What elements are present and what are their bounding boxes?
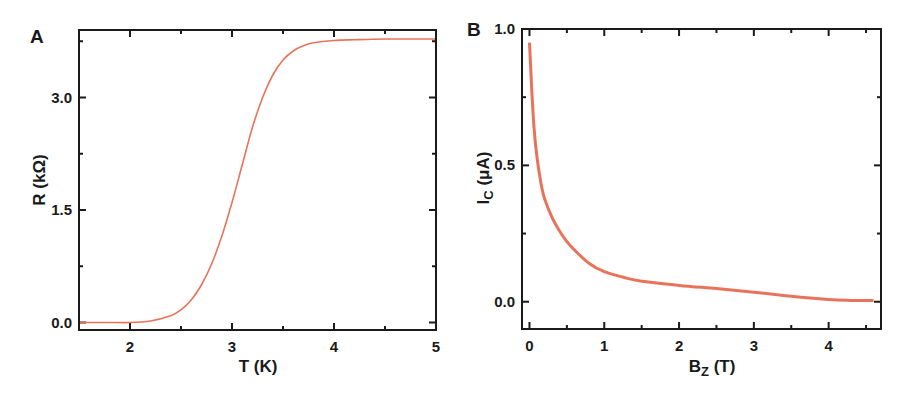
plot-frame-b [522, 29, 881, 329]
y-tick-label: 0.5 [494, 156, 515, 173]
panel-label-b: B [467, 19, 481, 40]
axis-ticks-a [79, 30, 436, 330]
tick-labels-a: 23450.01.53.0 [51, 89, 440, 356]
x-tick-label: 4 [824, 337, 833, 354]
y-axis-label-b: IC (μA) [474, 152, 496, 205]
x-axis-label-a: T (K) [239, 357, 278, 376]
figure: A 23450.01.53.0 T (K) R (kΩ) B 012340.00… [0, 0, 901, 395]
y-axis-label-a: R (kΩ) [30, 154, 49, 205]
panel-label-a: A [30, 26, 44, 47]
tick-labels-b: 012340.00.51.0 [494, 20, 833, 354]
x-tick-label: 4 [330, 338, 339, 355]
critical-current-curve [530, 43, 874, 301]
resistance-curve [79, 39, 436, 323]
x-tick-label: 1 [600, 337, 608, 354]
x-axis-label-b-main: B [689, 357, 701, 376]
y-tick-label: 3.0 [51, 89, 72, 106]
x-tick-label: 2 [126, 338, 134, 355]
x-axis-label-b-sub: Z [701, 364, 709, 379]
plot-frame-a [79, 30, 436, 330]
x-axis-label-b: BZ (T) [689, 357, 736, 379]
y-tick-label: 1.0 [494, 20, 515, 37]
x-axis-label-b-unit: (T) [709, 357, 735, 376]
x-tick-label: 5 [432, 338, 440, 355]
y-axis-label-b-unit: (μA) [474, 152, 493, 191]
chart-panel-a: A 23450.01.53.0 T (K) R (kΩ) [30, 26, 440, 376]
x-tick-label: 3 [228, 338, 236, 355]
x-tick-label: 3 [750, 337, 758, 354]
axis-ticks-b [522, 29, 881, 329]
y-tick-label: 0.0 [494, 293, 515, 310]
y-tick-label: 0.0 [51, 314, 72, 331]
x-tick-label: 0 [525, 337, 533, 354]
y-tick-label: 1.5 [51, 201, 72, 218]
x-tick-label: 2 [675, 337, 683, 354]
chart-panel-b: B 012340.00.51.0 BZ (T) IC (μA) [467, 19, 881, 379]
